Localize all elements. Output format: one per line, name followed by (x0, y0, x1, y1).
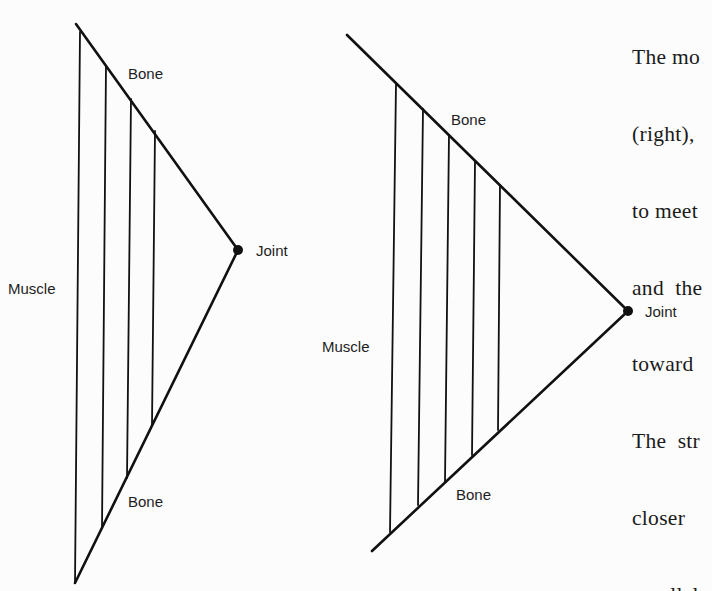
left-joint-label: Joint (256, 242, 289, 259)
left-muscle-fiber (75, 32, 80, 583)
right-muscle-fiber (390, 84, 396, 532)
right-joint-label: Joint (645, 303, 678, 320)
right-bone-bottom-label: Bone (456, 486, 491, 503)
left-muscle-fiber (152, 131, 155, 425)
right-muscle-fiber (445, 135, 449, 482)
left-bone-top (76, 24, 238, 250)
left-muscle-label: Muscle (8, 280, 56, 297)
left-bone-top-label: Bone (128, 65, 163, 82)
left-joint-dot (233, 245, 243, 255)
right-muscle-label: Muscle (322, 338, 370, 355)
right-muscle-fiber (418, 109, 423, 505)
left-bone-bottom (75, 250, 238, 583)
right-diagram (347, 35, 633, 551)
right-muscle-fiber (472, 162, 475, 455)
right-muscle-fiber (498, 185, 500, 430)
left-muscle-fiber (127, 99, 131, 478)
right-bone-top-label: Bone (451, 111, 486, 128)
right-joint-dot (623, 306, 633, 316)
right-bone-bottom (372, 311, 628, 551)
left-bone-bottom-label: Bone (128, 493, 163, 510)
left-muscle-fiber (102, 66, 106, 528)
right-bone-top (347, 35, 628, 311)
muscle-diagrams: Bone Bone Joint Muscle Bone Bone Joint M… (0, 0, 712, 591)
